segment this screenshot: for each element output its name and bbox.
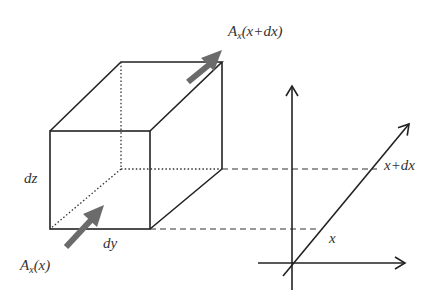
label-x: x (329, 231, 336, 246)
label-dz: dz (24, 171, 37, 186)
x-axis-diagonal (283, 124, 409, 276)
diagram-canvas: Ax(x+dx) Ax(x) dz dy x+dx x (0, 0, 448, 301)
coordinate-axes (258, 86, 409, 290)
projection-lines (150, 169, 377, 229)
label-flux-out: Ax(x+dx) (228, 24, 283, 41)
flux-arrow-in (66, 205, 104, 247)
label-flux-in: Ax(x) (20, 258, 50, 275)
diagram-svg (0, 0, 448, 301)
label-x-plus-dx: x+dx (384, 158, 415, 173)
cube-right-face (150, 62, 222, 229)
cube (50, 62, 222, 229)
label-dy: dy (103, 236, 117, 251)
